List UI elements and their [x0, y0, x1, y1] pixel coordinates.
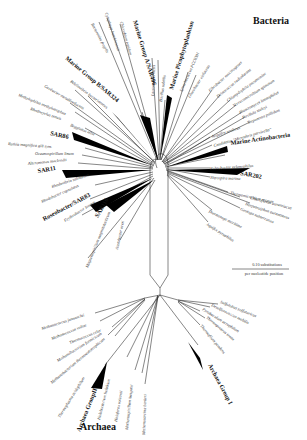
scale-bar-label-top: 0.10 substitutions [252, 262, 282, 267]
taxon-label: Methanospirillum hungatei [124, 383, 134, 431]
taxon-label: Bacillus subtilis [158, 74, 167, 102]
taxon-label: Chlorobium tepidum [119, 21, 133, 56]
archaea-taxa-labels: Sulfolobus solfataricus Desulfurococcus … [40, 299, 258, 436]
taxon-label: Lactococcus lactis [150, 64, 156, 97]
taxon-label: Oceanospirillum linum [35, 151, 74, 156]
taxon-label: Bacteroides fragilis [90, 22, 110, 54]
group-label-sar11: SAR11 [37, 164, 56, 174]
wedge-marine-group-a [140, 115, 158, 160]
scale-bar: 0.10 substitutions per nucleotide positi… [232, 262, 289, 276]
group-label-archaea-group-i: Archaea Group I [207, 362, 235, 406]
bacteria-branches [70, 18, 250, 258]
taxon-label: Ruthia magnifica gill sym. [7, 141, 52, 149]
taxon-label: Magnetospirillum magnetotacticum [84, 211, 111, 269]
taxon-label: Nitrospira marina [209, 175, 241, 181]
group-label-marine-picophytoplankton: Marine Picophytoplankton [167, 19, 195, 90]
group-label-sar86: SAR86 [50, 129, 70, 140]
domain-label-archaea: Archaea [80, 421, 116, 432]
phylogenetic-tree: Bacteria Archaea [0, 0, 307, 440]
taxon-label: Methanosarcina barkeri [141, 393, 147, 436]
domain-label-bacteria: Bacteria [253, 15, 289, 26]
group-label-sar202: SAR202 [240, 169, 263, 180]
taxon-label: Aquifex pyrophilus [205, 221, 236, 243]
wedge-archaea-group-i [188, 342, 203, 370]
archaea-branches [95, 295, 218, 384]
scale-bar-label-bottom: per nucleotide position [245, 271, 284, 276]
taxon-label: Haloferax volcanii [113, 389, 124, 423]
